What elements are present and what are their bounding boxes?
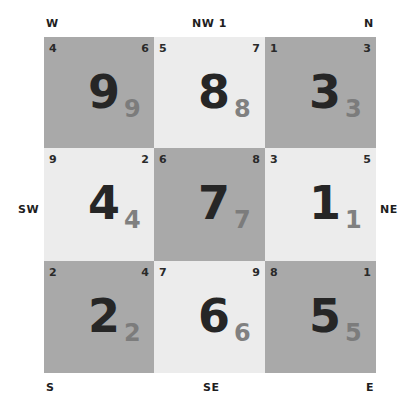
mountain-star: 1 [270,42,278,55]
water-star: 6 [141,42,149,55]
mountain-star: 5 [159,42,167,55]
grid-cell-se: 7 9 6 6 [154,261,265,373]
mountain-star: 4 [49,42,57,55]
mountain-star: 7 [159,266,167,279]
base-star: 2 [88,293,120,339]
grid-cell-n: 1 3 3 3 [265,37,376,148]
water-star: 2 [141,153,149,166]
annual-star: 4 [124,208,141,232]
water-star: 3 [363,42,371,55]
water-star: 1 [363,266,371,279]
mountain-star: 3 [270,153,278,166]
annual-star: 6 [234,321,251,345]
mountain-star: 9 [49,153,57,166]
annual-star: 7 [234,208,251,232]
base-star: 9 [88,69,120,115]
direction-label-ne: NE [380,203,398,216]
grid-cell-s: 2 4 2 2 [44,261,154,373]
direction-label-sw: SW [18,203,39,216]
base-star: 6 [198,293,230,339]
water-star: 5 [363,153,371,166]
annual-star: 5 [345,321,362,345]
grid-cell-nw: 5 7 8 8 [154,37,265,148]
direction-label-n: N [364,17,374,30]
base-star: 5 [309,293,341,339]
mountain-star: 8 [270,266,278,279]
base-star: 8 [198,69,230,115]
annual-star: 2 [124,321,141,345]
water-star: 4 [141,266,149,279]
mountain-star: 2 [49,266,57,279]
base-star: 7 [198,180,230,226]
direction-label-e: E [366,381,374,394]
base-star: 4 [88,180,120,226]
grid-cell-w: 4 6 9 9 [44,37,154,148]
flying-star-grid: 4 6 9 9 5 7 8 8 1 3 3 3 9 2 4 4 6 8 7 7 … [44,37,376,373]
annual-star: 8 [234,97,251,121]
annual-star: 9 [124,97,141,121]
direction-label-nw: NW 1 [192,17,227,30]
water-star: 7 [252,42,260,55]
annual-star: 3 [345,97,362,121]
water-star: 9 [252,266,260,279]
grid-cell-ne: 3 5 1 1 [265,148,376,261]
base-star: 1 [309,180,341,226]
direction-label-s: S [46,381,54,394]
direction-label-w: W [46,17,59,30]
water-star: 8 [252,153,260,166]
annual-star: 1 [345,208,362,232]
direction-label-se: SE [203,381,219,394]
grid-cell-center: 6 8 7 7 [154,148,265,261]
base-star: 3 [309,69,341,115]
mountain-star: 6 [159,153,167,166]
grid-cell-e: 8 1 5 5 [265,261,376,373]
grid-cell-sw: 9 2 4 4 [44,148,154,261]
